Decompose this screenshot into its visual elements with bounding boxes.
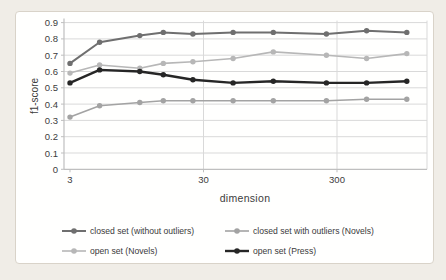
- legend-label: open set (Press): [253, 246, 316, 256]
- series-marker-2: [67, 70, 72, 75]
- series-marker-3: [137, 69, 142, 74]
- series-marker-2: [404, 51, 409, 56]
- series-marker-0: [67, 61, 72, 66]
- series-marker-3: [230, 80, 235, 85]
- x-axis-title: dimension: [145, 192, 345, 204]
- series-marker-2: [190, 59, 195, 64]
- series-marker-2: [97, 62, 102, 67]
- series-marker-1: [67, 114, 72, 119]
- chart-canvas: [0, 0, 446, 280]
- series-marker-3: [364, 80, 369, 85]
- series-marker-3: [324, 80, 329, 85]
- series-marker-2: [161, 61, 166, 66]
- series-marker-1: [137, 100, 142, 105]
- legend-entry: closed set with outliers (Novels): [225, 225, 374, 237]
- series-marker-0: [190, 31, 195, 36]
- series-marker-0: [404, 30, 409, 35]
- series-marker-3: [190, 77, 195, 82]
- series-marker-1: [324, 98, 329, 103]
- series-marker-0: [161, 30, 166, 35]
- series-marker-2: [271, 49, 276, 54]
- series-marker-1: [230, 98, 235, 103]
- legend-label: open set (Novels): [90, 246, 157, 256]
- legend-entry: open set (Press): [225, 245, 316, 257]
- legend-label: closed set (without outliers): [90, 226, 194, 236]
- y-tick-label: 0.9: [28, 17, 58, 28]
- y-tick-label: 0.8: [28, 33, 58, 44]
- y-tick-label: 0.6: [28, 66, 58, 77]
- series-marker-0: [324, 31, 329, 36]
- series-marker-1: [97, 103, 102, 108]
- series-marker-1: [364, 97, 369, 102]
- series-marker-3: [97, 67, 102, 72]
- legend-marker-icon: [225, 226, 249, 236]
- series-marker-2: [230, 56, 235, 61]
- legend-marker-icon: [225, 246, 249, 256]
- x-tick-label: 30: [184, 174, 224, 185]
- x-tick-label: 300: [317, 174, 357, 185]
- series-marker-0: [97, 40, 102, 45]
- series-marker-3: [67, 80, 72, 85]
- legend-entry: closed set (without outliers): [62, 225, 194, 237]
- series-marker-1: [190, 98, 195, 103]
- legend-marker-icon: [62, 246, 86, 256]
- series-marker-3: [404, 79, 409, 84]
- series-marker-0: [364, 28, 369, 33]
- series-line-0: [70, 31, 407, 64]
- series-marker-2: [324, 53, 329, 58]
- series-line-1: [70, 99, 407, 117]
- y-tick-label: 0.4: [28, 99, 58, 110]
- series-marker-2: [364, 56, 369, 61]
- series-marker-0: [137, 33, 142, 38]
- series-marker-1: [271, 98, 276, 103]
- legend-entry: open set (Novels): [62, 245, 157, 257]
- series-marker-1: [404, 97, 409, 102]
- y-tick-label: 0.3: [28, 115, 58, 126]
- legend-label: closed set with outliers (Novels): [253, 226, 374, 236]
- series-marker-0: [230, 30, 235, 35]
- series-marker-0: [271, 30, 276, 35]
- legend-marker-icon: [62, 226, 86, 236]
- series-marker-3: [271, 79, 276, 84]
- series-marker-1: [161, 98, 166, 103]
- y-tick-label: 0.5: [28, 82, 58, 93]
- y-tick-label: 0.7: [28, 50, 58, 61]
- series-marker-3: [161, 72, 166, 77]
- x-tick-label: 3: [50, 174, 90, 185]
- y-tick-label: 0.1: [28, 148, 58, 159]
- y-tick-label: 0.2: [28, 131, 58, 142]
